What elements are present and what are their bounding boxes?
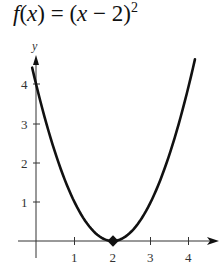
y-tick-label-1: 1 bbox=[21, 195, 28, 210]
y-tick-label-2: 2 bbox=[21, 156, 28, 171]
vertex-point bbox=[107, 235, 118, 246]
x-tick-label-1: 1 bbox=[71, 250, 78, 265]
y-tick-label-4: 4 bbox=[21, 77, 28, 92]
x-tick-label-3: 3 bbox=[147, 250, 154, 265]
plot-area: y 1 2 3 4 1 2 3 4 bbox=[0, 0, 222, 271]
x-tick-label-4: 4 bbox=[185, 250, 192, 265]
y-tick-label-3: 3 bbox=[21, 117, 28, 132]
y-ticks: 1 2 3 4 bbox=[21, 77, 40, 210]
y-axis-label: y bbox=[31, 39, 38, 53]
y-axis-arrow-icon bbox=[33, 55, 39, 65]
x-tick-label-2: 2 bbox=[110, 250, 117, 265]
function-curve bbox=[32, 59, 195, 241]
